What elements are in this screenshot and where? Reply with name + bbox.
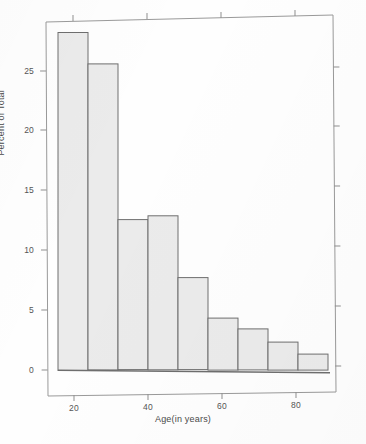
ytick-label-0: 0: [16, 365, 34, 375]
bar-bin-1: [58, 33, 88, 371]
top-axis-ticks: [73, 10, 295, 21]
y-axis-title: Percent of Total: [6, 30, 16, 150]
plot-area: [0, 0, 366, 444]
bar-bin-6: [208, 318, 238, 370]
bar-bin-7: [238, 329, 268, 370]
bar-bin-9: [298, 354, 328, 370]
ytick-label-25: 25: [16, 66, 34, 76]
bar-bin-5: [178, 278, 208, 370]
histogram-bars: [58, 33, 328, 371]
y-axis-title-text: Percent of Total: [0, 90, 6, 156]
bar-bin-8: [268, 342, 298, 370]
xtick-label-40: 40: [143, 402, 153, 412]
xtick-label-20: 20: [69, 403, 79, 413]
ytick-label-10: 10: [16, 245, 34, 255]
ytick-label-5: 5: [16, 305, 34, 315]
bar-bin-3: [118, 220, 148, 370]
histogram-figure: 0 5 10 15 20 25 20 40 60 80 Age(in years…: [0, 0, 366, 444]
bar-bin-2: [88, 64, 118, 370]
bar-bin-4: [148, 216, 178, 370]
ytick-label-20: 20: [16, 125, 34, 135]
ytick-label-15: 15: [16, 185, 34, 195]
xtick-label-60: 60: [217, 401, 227, 411]
xtick-label-80: 80: [291, 400, 301, 410]
x-axis-title: Age(in years): [0, 414, 366, 424]
